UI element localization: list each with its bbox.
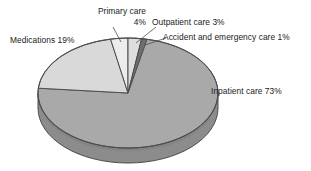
pie-label-primary-care: Primary care 4%: [84, 6, 146, 28]
pie-label-primary-care-name: Primary care: [98, 6, 146, 16]
pie-label-inpatient-care: Inpatient care 73%: [211, 86, 282, 97]
pie-label-primary-care-value: 4%: [134, 17, 146, 27]
pie-label-accident-and-emergency-care: Accident and emergency care 1%: [163, 32, 290, 43]
pie-label-outpatient-care: Outpatient care 3%: [152, 17, 225, 28]
pie-slices: [38, 38, 218, 148]
pie-chart-figure: Primary care 4% Outpatient care 3% Accid…: [0, 0, 311, 171]
pie-label-medications: Medications 19%: [10, 35, 75, 46]
